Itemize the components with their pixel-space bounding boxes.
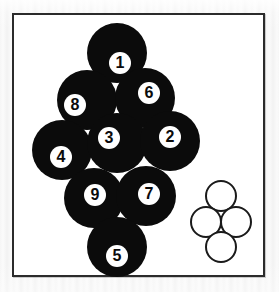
ball-5-number: 5	[113, 248, 122, 264]
ball-3-number: 3	[105, 130, 114, 146]
hollow-circle-bottom[interactable]	[205, 231, 237, 263]
ball-7-number: 7	[145, 186, 154, 202]
ball-9-number-disc: 9	[84, 184, 106, 206]
ball-8-number-disc: 8	[64, 94, 86, 116]
ball-1-number-disc: 1	[109, 52, 131, 74]
ball-4-number: 4	[57, 149, 66, 165]
ball-1-number: 1	[116, 55, 125, 71]
ball-5-number-disc: 5	[106, 245, 128, 267]
ball-7-number-disc: 7	[138, 183, 160, 205]
ball-2-number-disc: 2	[159, 126, 181, 148]
ball-6-number: 6	[145, 85, 154, 101]
ball-3-number-disc: 3	[98, 127, 120, 149]
diagram-frame: 1 8 6 4 3 2	[12, 13, 265, 277]
ball-8-number: 8	[71, 97, 80, 113]
ball-9-number: 9	[91, 187, 100, 203]
ball-2-number: 2	[166, 129, 175, 145]
ball-4-number-disc: 4	[50, 146, 72, 168]
figure-root: Nine-ball diamond rack diagram 1 8 6 4	[0, 0, 279, 292]
ball-6-number-disc: 6	[138, 82, 160, 104]
